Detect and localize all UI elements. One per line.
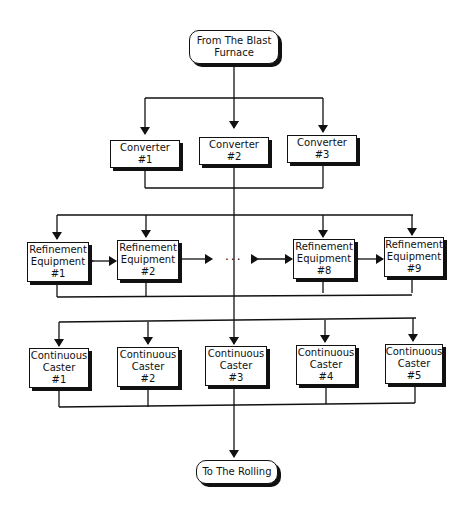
end-node-label: To The Rolling xyxy=(202,466,271,478)
start-node: From The Blast Furnace xyxy=(189,30,279,64)
continuous-caster-4: Continuous Caster #4 xyxy=(296,345,356,385)
ellipsis: ... xyxy=(225,249,242,263)
continuous-caster-3: Continuous Caster #3 xyxy=(205,346,267,386)
refinement-8-label: Refinement Equipment #8 xyxy=(295,241,353,277)
caster-1-label: Continuous Caster #1 xyxy=(31,350,87,386)
converter-2: Converter #2 xyxy=(199,137,269,165)
caster-4-label: Continuous Caster #4 xyxy=(298,347,354,383)
refinement-1-label: Refinement Equipment #1 xyxy=(29,244,87,280)
refinement-2-label: Refinement Equipment #2 xyxy=(119,242,177,278)
continuous-caster-1: Continuous Caster #1 xyxy=(29,348,89,388)
refinement-equipment-9: Refinement Equipment #9 xyxy=(384,237,444,277)
converter-3-label: Converter #3 xyxy=(297,137,347,161)
refinement-9-label: Refinement Equipment #9 xyxy=(385,239,443,275)
refinement-equipment-2: Refinement Equipment #2 xyxy=(117,240,179,280)
caster-2-label: Continuous Caster #2 xyxy=(120,349,176,385)
caster-3-label: Continuous Caster #3 xyxy=(208,348,264,384)
refinement-equipment-8: Refinement Equipment #8 xyxy=(293,239,355,279)
continuous-caster-2: Continuous Caster #2 xyxy=(117,347,179,387)
end-node: To The Rolling xyxy=(196,460,278,484)
start-node-label: From The Blast Furnace xyxy=(197,35,272,59)
refinement-equipment-1: Refinement Equipment #1 xyxy=(27,242,89,282)
continuous-caster-5: Continuous Caster #5 xyxy=(385,344,443,384)
converter-3: Converter #3 xyxy=(287,135,357,163)
caster-5-label: Continuous Caster #5 xyxy=(386,346,442,382)
converter-1-label: Converter #1 xyxy=(120,142,170,166)
converter-1: Converter #1 xyxy=(110,140,180,168)
converter-2-label: Converter #2 xyxy=(209,139,259,163)
